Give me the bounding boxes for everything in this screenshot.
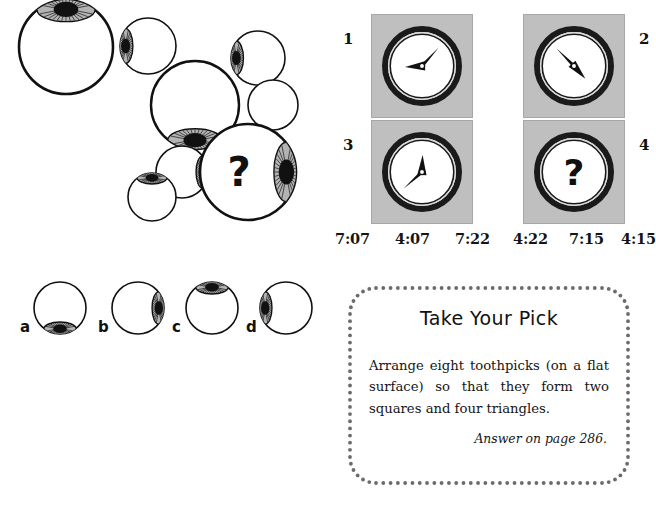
cluster-eyeball-7 — [128, 172, 176, 221]
take-your-pick-box: Take Your Pick Arrange eight toothpicks … — [345, 283, 633, 488]
option-eyeball-d — [258, 282, 312, 334]
eyeball-cluster-svg: ? — [0, 0, 330, 260]
option-label-b[interactable]: b — [98, 320, 109, 335]
answer-options: abcd — [8, 268, 338, 363]
time-options-row: 7:074:077:224:227:154:15 — [333, 230, 643, 254]
time-option-3[interactable]: 7:22 — [455, 232, 490, 247]
answer-options-svg — [8, 268, 338, 363]
clock-face-1 — [371, 14, 473, 118]
clock-sequence-puzzle: 123?4 7:074:077:224:227:154:15 — [333, 4, 643, 254]
cluster-eyeball-2-iris — [118, 29, 133, 64]
cluster-eyeball-2 — [118, 18, 176, 74]
clock-number-4: 4 — [639, 138, 649, 153]
time-option-4[interactable]: 4:22 — [513, 232, 548, 247]
clock-question-mark: ? — [564, 152, 585, 193]
cluster-eyeball-3 — [229, 31, 285, 85]
option-label-d[interactable]: d — [246, 320, 257, 335]
time-option-6[interactable]: 4:15 — [621, 232, 656, 247]
option-eyeball-b-iris — [152, 292, 166, 324]
option-label-a[interactable]: a — [20, 320, 30, 335]
clock-grid: 123?4 — [333, 4, 643, 226]
take-your-pick-body: Arrange eight toothpicks (on a flat surf… — [369, 355, 609, 419]
take-your-pick-answer-note: Answer on page 286. — [367, 431, 607, 446]
option-eyeball-d-iris — [258, 292, 272, 324]
cluster-question-mark: ? — [227, 149, 250, 195]
cluster-eyeball-3-iris — [229, 41, 243, 74]
clock-face-2 — [523, 14, 625, 118]
cluster-eyeball-1 — [19, 0, 113, 94]
option-eyeball-c-iris — [196, 280, 228, 294]
clock-face-4: ? — [523, 120, 625, 224]
option-eyeball-a — [34, 282, 86, 336]
clock-face-3 — [371, 120, 473, 224]
time-option-5[interactable]: 7:15 — [569, 232, 604, 247]
take-your-pick-title: Take Your Pick — [367, 307, 611, 329]
clock-number-2: 2 — [639, 32, 649, 47]
eyeball-cluster-puzzle: ? — [0, 0, 330, 260]
cluster-eyeball-4 — [248, 80, 298, 130]
clock-cell-1: 1 — [371, 14, 473, 118]
option-eyeball-b — [112, 282, 166, 334]
clock-cell-2: 2 — [523, 14, 625, 118]
time-option-2[interactable]: 4:07 — [395, 232, 430, 247]
clock-number-3: 3 — [343, 138, 353, 153]
take-your-pick-content: Take Your Pick Arrange eight toothpicks … — [367, 299, 611, 472]
cluster-eyeball-8-iris — [274, 142, 299, 202]
time-option-1[interactable]: 7:07 — [335, 232, 370, 247]
option-eyeball-a-iris — [44, 322, 76, 336]
clock-cell-4: ?4 — [523, 120, 625, 224]
clock-cell-3: 3 — [371, 120, 473, 224]
option-eyeball-c — [186, 280, 238, 334]
option-label-c[interactable]: c — [172, 320, 181, 335]
clock-number-1: 1 — [343, 32, 353, 47]
